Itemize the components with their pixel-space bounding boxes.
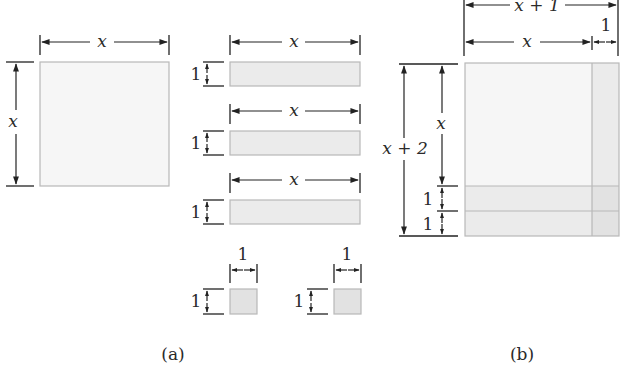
unit-square-tile-2: 1 1	[294, 244, 361, 314]
top-small-label: 1	[601, 15, 612, 35]
unit-square-1-width-label: 1	[238, 244, 249, 264]
left-inner-label: x	[436, 113, 446, 133]
panel-b: x + 1 x 1 x + 2 x 1	[382, 0, 619, 364]
top-outer-label: x + 1	[514, 0, 559, 15]
left-dimensions: x + 2 x 1 1	[382, 64, 458, 236]
left-unit-label-1: 1	[423, 189, 434, 209]
panel-b-caption: (b)	[510, 344, 534, 364]
strip-2-height-label: 1	[191, 133, 202, 153]
x-strip-tile-2: x 1	[191, 100, 360, 155]
unit-square-2-height-label: 1	[294, 291, 305, 311]
strip-1-height-label: 1	[191, 64, 202, 84]
unit-square-1-height-label: 1	[191, 291, 202, 311]
x-square-height-label: x	[8, 111, 18, 131]
strip-2-width-label: x	[289, 100, 299, 120]
panel-a: x x x 1 x	[6, 31, 361, 364]
x-square-width-label: x	[97, 31, 107, 51]
left-unit-label-2: 1	[423, 214, 434, 234]
combined-rectangle	[465, 63, 619, 236]
top-dimensions: x + 1 x 1	[464, 0, 618, 56]
x-strip-tile-1: x 1	[191, 31, 360, 86]
left-outer-label: x + 2	[382, 138, 427, 158]
strip-3-height-label: 1	[191, 202, 202, 222]
algebra-tiles-figure: x x x 1 x	[0, 0, 625, 381]
x-square-tile: x x	[6, 31, 169, 186]
x-strip-tile-3: x 1	[191, 169, 360, 224]
top-inner-label: x	[522, 31, 532, 51]
panel-a-caption: (a)	[161, 344, 184, 364]
strip-1-width-label: x	[289, 31, 299, 51]
strip-3-width-label: x	[289, 169, 299, 189]
unit-square-2-width-label: 1	[342, 244, 353, 264]
unit-square-tile-1: 1 1	[191, 244, 257, 314]
